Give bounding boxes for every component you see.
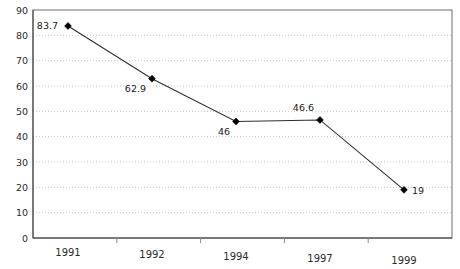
y-tick-label-0: 0: [22, 233, 28, 244]
y-tick-label-50: 50: [16, 106, 28, 117]
line-chart: 0 10 20 30 40 50 60 70 80 90 1991 1992 1…: [0, 0, 460, 269]
y-tick-label-80: 80: [16, 30, 28, 41]
x-tick-label-1994: 1994: [223, 251, 248, 262]
x-tick-label-1992: 1992: [139, 249, 164, 260]
x-tick-label-1991: 1991: [55, 247, 80, 258]
y-tick-label-40: 40: [16, 131, 28, 142]
data-label-1994: 46: [218, 126, 230, 137]
data-label-1999: 19: [412, 185, 424, 196]
chart-background: [0, 0, 460, 269]
y-tick-label-20: 20: [16, 182, 28, 193]
data-label-1992: 62.9: [125, 83, 146, 94]
y-tick-label-90: 90: [16, 5, 28, 16]
chart-canvas: 0 10 20 30 40 50 60 70 80 90 1991 1992 1…: [0, 0, 460, 269]
data-label-1991: 83.7: [37, 20, 58, 31]
data-label-1997: 46.6: [293, 102, 314, 113]
y-tick-label-10: 10: [16, 207, 28, 218]
y-tick-label-60: 60: [16, 81, 28, 92]
x-tick-label-1997: 1997: [307, 253, 332, 264]
x-tick-label-1999: 1999: [391, 255, 416, 266]
y-tick-label-30: 30: [16, 157, 28, 168]
y-tick-label-70: 70: [16, 55, 28, 66]
